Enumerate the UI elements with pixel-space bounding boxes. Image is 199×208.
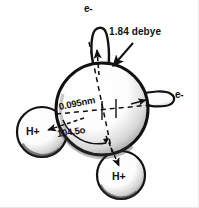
water-molecule-figure: e- e- 1.84 debye 0.095nm 104.5o H+ H+ [0, 0, 199, 208]
dipole-moment-label: 1.84 debye [109, 27, 161, 37]
dipole-pointer-arrow [113, 43, 133, 66]
hydrogen-label-left: H+ [26, 126, 39, 137]
molecule-drawing [0, 0, 199, 208]
electron-label-top: e- [84, 4, 93, 14]
hydrogen-label-bottom: H+ [112, 171, 125, 182]
electron-label-right: e- [175, 90, 184, 100]
